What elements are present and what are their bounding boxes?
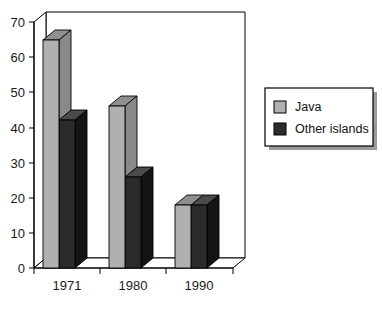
x-tick-label-1980: 1980 (119, 278, 148, 293)
y-tick-label-70: 70 (11, 15, 25, 30)
bar-1980-other-islands (125, 167, 153, 268)
legend-box (265, 88, 373, 146)
legend-label-java: Java (295, 100, 321, 114)
y-tick-label-0: 0 (18, 261, 25, 276)
y-tick-label-30: 30 (11, 156, 25, 171)
bar-group-1990 (175, 195, 219, 268)
legend-entry-java[interactable]: Java (274, 100, 321, 114)
bar-chart-3d: 0 10 20 30 40 50 60 70 1971 1980 1990 (0, 0, 382, 315)
y-tick-label-60: 60 (11, 50, 25, 65)
y-tick-label-20: 20 (11, 191, 25, 206)
bar-1971-other-islands (59, 110, 87, 268)
legend-swatch-other-islands (274, 123, 286, 135)
bar-side-face (125, 96, 137, 177)
y-tick-label-40: 40 (11, 121, 25, 136)
x-tick-label-1971: 1971 (53, 278, 82, 293)
x-tick-label-1990: 1990 (185, 278, 214, 293)
bar-front-face (59, 120, 75, 268)
bar-front-face (175, 205, 191, 268)
bar-front-face (191, 205, 207, 268)
bar-front-face (109, 106, 125, 268)
legend-label-other-islands: Other islands (295, 122, 369, 136)
legend[interactable]: Java Other islands (265, 88, 377, 150)
bar-side-face (207, 195, 219, 268)
legend-swatch-java (274, 101, 286, 113)
chart-canvas: 0 10 20 30 40 50 60 70 1971 1980 1990 (0, 0, 382, 315)
bar-front-face (125, 177, 141, 268)
bar-front-face (43, 40, 59, 268)
bar-side-face (141, 167, 153, 268)
bar-side-face (59, 30, 71, 120)
bar-side-face (75, 110, 87, 268)
bar-1990-other-islands (191, 195, 219, 268)
y-tick-label-10: 10 (11, 226, 25, 241)
y-tick-label-50: 50 (11, 85, 25, 100)
